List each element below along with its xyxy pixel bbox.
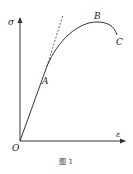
y-axis-label: σ (8, 17, 15, 27)
origin-label: O (12, 143, 20, 153)
x-axis-label: ε (116, 130, 120, 139)
stress-strain-curve (20, 22, 117, 141)
tangent-dashed-line (47, 15, 63, 66)
figure-caption: 图 1 (59, 158, 73, 166)
point-b-label: B (93, 11, 101, 21)
point-c-label: C (116, 37, 123, 47)
point-a-label: A (41, 76, 49, 86)
stress-strain-diagram: σ ε O A B C 图 1 (0, 0, 133, 174)
